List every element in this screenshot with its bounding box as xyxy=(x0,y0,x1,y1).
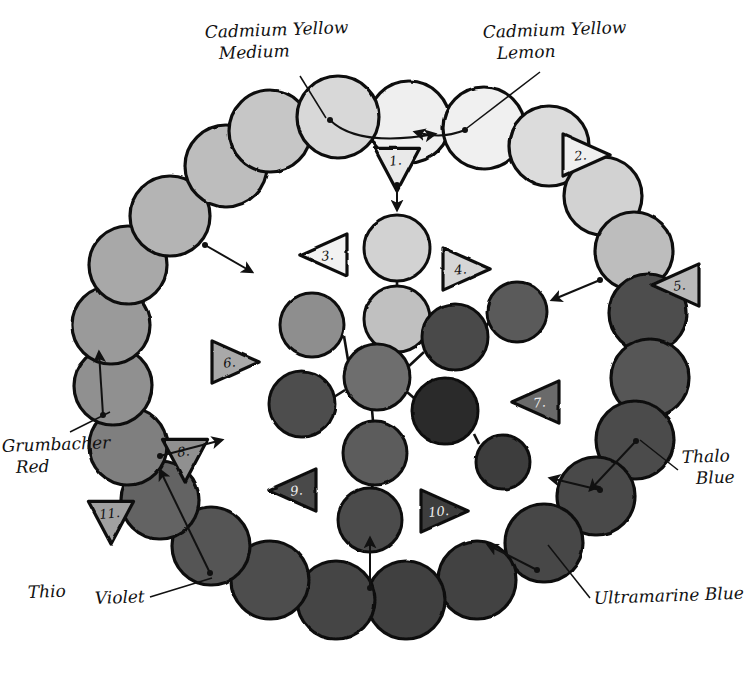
triangle-6-number: 6. xyxy=(223,354,237,370)
arrow-upper-left-out xyxy=(205,245,252,272)
inner-swatch-upper xyxy=(364,286,430,352)
connector-center-right xyxy=(409,352,424,366)
triangle-4-number: 4. xyxy=(453,261,468,277)
label-cadmium-yellow-lemon-line1: Cadmium Yellow xyxy=(482,17,627,42)
triangle-9-number: 9. xyxy=(290,482,304,498)
triangle-5-number: 5. xyxy=(673,277,687,293)
label-ultramarine-blue: Ultramarine Blue xyxy=(593,583,744,608)
triangle-1-number: 1. xyxy=(389,152,403,168)
inner-swatch-left-upper xyxy=(280,293,344,357)
arrow-cym-to-center-origin-dot xyxy=(327,117,333,123)
inner-swatch-far-right xyxy=(487,282,547,342)
arrow-upper-left-out-origin-dot xyxy=(202,242,208,248)
triangle-11-number: 11. xyxy=(98,505,120,522)
label-grumbacher-red-line2: Red xyxy=(14,456,50,477)
arrow-t8-right-origin-dot xyxy=(157,453,163,459)
leader-violet xyxy=(150,578,212,597)
arrow-blue-left-origin-dot xyxy=(597,487,603,493)
connector-dark-rlow xyxy=(474,434,479,444)
arrow-t1-down-origin-dot xyxy=(394,182,400,188)
arrow-thalo-in-origin-dot xyxy=(633,438,639,444)
inner-swatch-below xyxy=(343,421,407,485)
inner-swatch-left xyxy=(269,371,335,437)
triangle-7-number: 7. xyxy=(533,394,547,410)
label-cadmium-yellow-medium: Cadmium YellowMedium xyxy=(204,17,349,63)
triangle-3: 3. xyxy=(300,234,347,276)
inner-swatch-top xyxy=(364,215,430,281)
label-violet-line1: Violet xyxy=(94,586,145,608)
connector-center-dark xyxy=(407,392,414,398)
label-violet: Violet xyxy=(94,586,145,608)
arrow-right-in xyxy=(552,280,600,300)
triangle-10: 10. xyxy=(421,490,468,532)
label-cadmium-yellow-lemon-line2: Lemon xyxy=(495,41,555,63)
triangle-2-number: 2. xyxy=(573,147,588,163)
triangle-3-number: 3. xyxy=(321,247,335,263)
arrow-ultra-in-origin-dot xyxy=(534,567,540,573)
label-thalo-blue: ThaloBlue xyxy=(681,445,735,488)
label-grumbacher-red-line1: Grumbacher xyxy=(1,432,111,456)
color-wheel-svg: 1.2.3.4.5.6.7.8.9.10.11. Cadmium YellowM… xyxy=(0,0,756,680)
label-cadmium-yellow-medium-line2: Medium xyxy=(217,41,290,63)
arrow-cyl-to-center-origin-dot xyxy=(462,127,468,133)
triangle-10-number: 10. xyxy=(427,503,449,520)
arrow-right-in-origin-dot xyxy=(597,277,603,283)
label-ultramarine-blue-line1: Ultramarine Blue xyxy=(593,583,744,608)
connector-center-below xyxy=(372,410,373,421)
inner-swatch-center xyxy=(344,344,410,410)
connector-left-center xyxy=(344,336,348,360)
label-cadmium-yellow-medium-line1: Cadmium Yellow xyxy=(204,17,349,42)
arrow-thio-up-origin-dot xyxy=(207,570,213,576)
triangle-7: 7. xyxy=(512,381,559,423)
triangle-6: 6. xyxy=(212,341,259,383)
triangle-9: 9. xyxy=(269,469,316,511)
arrow-bottom-up-origin-dot xyxy=(367,585,373,591)
diagram-canvas: 1.2.3.4.5.6.7.8.9.10.11. Cadmium YellowM… xyxy=(0,0,756,680)
inner-swatch-right-low xyxy=(476,435,530,489)
label-thalo-blue-line2: Blue xyxy=(694,467,735,488)
label-thio-line1: Thio xyxy=(27,581,66,602)
inner-swatch-right-upper xyxy=(422,304,488,370)
connector-left-low xyxy=(334,390,345,397)
triangle-4: 4. xyxy=(443,248,490,290)
label-thio: Thio xyxy=(27,581,66,602)
label-thalo-blue-line1: Thalo xyxy=(681,445,730,467)
arrow-red-up-origin-dot xyxy=(100,412,106,418)
inner-swatch-dark xyxy=(412,378,478,444)
label-cadmium-yellow-lemon: Cadmium YellowLemon xyxy=(482,17,627,63)
